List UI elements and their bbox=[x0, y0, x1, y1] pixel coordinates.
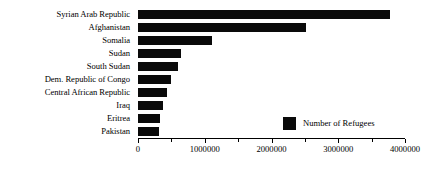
category-label: Eritrea bbox=[0, 112, 134, 125]
bar-track bbox=[138, 21, 405, 34]
value-axis: 01000000200000030000004000000 bbox=[138, 138, 406, 174]
bar-track bbox=[138, 99, 405, 112]
axis-tick-label: 3000000 bbox=[323, 144, 353, 154]
bar bbox=[138, 88, 167, 97]
category-label: Dem. Republic of Congo bbox=[0, 73, 134, 86]
bar bbox=[138, 127, 159, 136]
chart-legend: Number of Refugees bbox=[283, 117, 375, 130]
axis-major-tick bbox=[338, 139, 339, 143]
category-label: Pakistan bbox=[0, 125, 134, 138]
bar bbox=[138, 75, 171, 84]
category-label: Central African Republic bbox=[0, 86, 134, 99]
axis-tick-label: 1000000 bbox=[190, 144, 220, 154]
category-axis: Syrian Arab RepublicAfghanistanSomaliaSu… bbox=[0, 8, 134, 138]
bar-track bbox=[138, 86, 405, 99]
axis-tick-label: 0 bbox=[136, 144, 140, 154]
axis-major-tick bbox=[138, 139, 139, 143]
axis-tick-label: 2000000 bbox=[256, 144, 286, 154]
bar bbox=[138, 49, 181, 58]
legend-label-number-of-refugees: Number of Refugees bbox=[303, 117, 375, 130]
bar-track bbox=[138, 60, 405, 73]
axis-minor-tick bbox=[372, 139, 373, 142]
category-label: Syrian Arab Republic bbox=[0, 8, 134, 21]
bar bbox=[138, 23, 306, 32]
bar bbox=[138, 10, 390, 19]
bar bbox=[138, 101, 163, 110]
axis-major-tick bbox=[205, 139, 206, 143]
category-label: Afghanistan bbox=[0, 21, 134, 34]
axis-major-tick bbox=[405, 139, 406, 143]
bar-chart: Syrian Arab RepublicAfghanistanSomaliaSu… bbox=[0, 0, 440, 174]
bar-track bbox=[138, 73, 405, 86]
axis-tick-label: 4000000 bbox=[390, 144, 420, 154]
legend-swatch-number-of-refugees bbox=[283, 117, 296, 130]
bar-track bbox=[138, 8, 405, 21]
axis-major-tick bbox=[272, 139, 273, 143]
bar bbox=[138, 36, 212, 45]
bar bbox=[138, 114, 160, 123]
category-label: Iraq bbox=[0, 99, 134, 112]
category-label: Sudan bbox=[0, 47, 134, 60]
bar-track bbox=[138, 47, 405, 60]
axis-minor-tick bbox=[238, 139, 239, 142]
axis-minor-tick bbox=[171, 139, 172, 142]
axis-minor-tick bbox=[305, 139, 306, 142]
bar bbox=[138, 62, 178, 71]
bar-track bbox=[138, 34, 405, 47]
category-label: Somalia bbox=[0, 34, 134, 47]
category-label: South Sudan bbox=[0, 60, 134, 73]
